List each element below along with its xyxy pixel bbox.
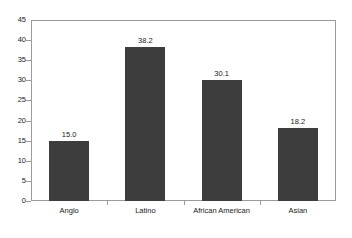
y-axis-tick-label: 20: [18, 116, 26, 125]
bars-layer: 15.038.230.118.2: [31, 20, 336, 201]
bar-value-label: 18.2: [260, 117, 336, 126]
x-axis: AngloLatinoAfrican AmericanAsian: [31, 206, 336, 220]
bar: [202, 80, 242, 201]
y-axis-tick-label: 45: [18, 15, 26, 24]
y-axis-tick-label: 40: [18, 35, 26, 44]
bar: [278, 128, 318, 201]
bar-value-label: 15.0: [31, 130, 107, 139]
x-axis-tick-mark: [107, 201, 108, 205]
bar-chart: 051015202530354045 AngloLatinoAfrican Am…: [0, 0, 352, 238]
bar: [49, 141, 89, 201]
x-axis-tick-mark: [260, 201, 261, 205]
x-axis-category-label: Asian: [260, 206, 336, 216]
y-axis-tick-label: 35: [18, 55, 26, 64]
x-axis-category-label: Anglo: [31, 206, 107, 216]
x-axis-category-label: Latino: [107, 206, 183, 216]
x-axis-category-label: African American: [184, 206, 260, 216]
y-axis-tick-label: 10: [18, 156, 26, 165]
x-axis-tick-mark: [184, 201, 185, 205]
y-axis-tick-label: 30: [18, 75, 26, 84]
bar-value-label: 38.2: [107, 36, 183, 45]
y-axis-tick-label: 15: [18, 136, 26, 145]
y-axis: 051015202530354045: [0, 20, 26, 201]
bar-value-label: 30.1: [184, 69, 260, 78]
bar: [125, 47, 165, 201]
y-axis-tick-label: 25: [18, 95, 26, 104]
